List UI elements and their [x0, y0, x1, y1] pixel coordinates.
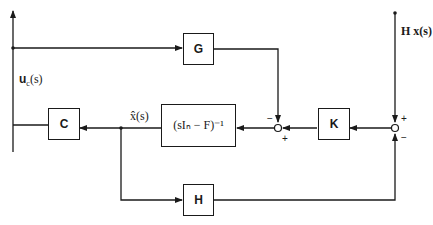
- block-k-label: K: [330, 117, 339, 131]
- source-dot-measurement: [393, 11, 397, 15]
- label-measurement-signal: H x(s): [401, 25, 432, 37]
- summing-junction-1: [275, 125, 282, 132]
- block-c-label: C: [60, 117, 69, 131]
- label-estimate-signal: x̂(s): [130, 110, 149, 122]
- block-k: K: [318, 108, 350, 140]
- block-h-label: H: [194, 193, 203, 207]
- sum2-plus-sign: +: [401, 114, 407, 124]
- junction-dot-top: [11, 46, 15, 50]
- block-inverse-label: (sIₙ − F)⁻¹: [173, 118, 224, 133]
- label-control-signal: uc(s): [19, 73, 43, 88]
- junction-dot-estimate: [119, 126, 123, 130]
- sum2-minus-sign: −: [401, 133, 407, 143]
- summing-junction-2: [392, 125, 399, 132]
- block-c: C: [48, 108, 80, 140]
- block-diagram: G C (sIₙ − F)⁻¹ K H uc(s) x̂(s) H x(s) −…: [0, 0, 433, 225]
- block-g: G: [183, 33, 214, 65]
- sum1-plus-sign: +: [282, 134, 288, 144]
- block-inverse: (sIₙ − F)⁻¹: [161, 104, 236, 147]
- sum1-minus-sign: −: [267, 114, 273, 124]
- block-g-label: G: [194, 42, 203, 56]
- block-h: H: [183, 184, 214, 216]
